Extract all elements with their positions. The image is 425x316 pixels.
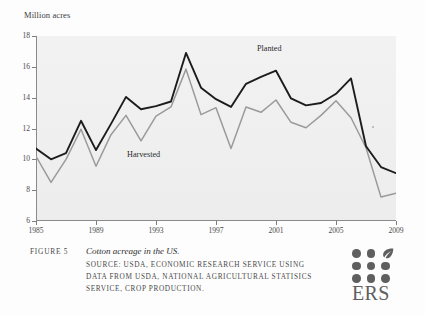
ers-wordmark: ERS [352,282,390,304]
x-tick-mark-1989 [96,221,97,225]
x-axis-tick-1985: 1985 [19,226,53,235]
y-tick-mark-10 [32,159,36,160]
y-axis-tick-8: 8 [8,185,30,194]
logo-dot [367,262,376,271]
y-axis-label: Million acres [24,10,70,20]
x-tick-mark-2001 [276,221,277,225]
figure-number: FIGURE 5 [30,247,86,256]
source-line-2: DATA FROM USDA, NATIONAL AGRICULTURAL ST… [86,271,350,283]
planted-line [36,53,396,173]
chart-plot [36,36,396,221]
source-note: SOURCE: USDA, ECONOMIC RESEARCH SERVICE … [86,259,350,296]
y-axis-tick-14: 14 [8,93,30,102]
y-tick-mark-16 [32,67,36,68]
x-axis-tick-2005: 2005 [319,226,353,235]
x-tick-mark-2005 [336,221,337,225]
y-tick-mark-12 [32,129,36,130]
figure-caption: FIGURE 5 Cotton acreage in the US. SOURC… [30,246,350,296]
x-axis-tick-2001: 2001 [259,226,293,235]
y-axis-tick-12: 12 [8,124,30,133]
source-line-1: SOURCE: USDA, ECONOMIC RESEARCH SERVICE … [86,259,350,271]
x-tick-mark-1985 [36,221,37,225]
logo-dot [352,249,361,258]
y-axis-tick-18: 18 [8,31,30,40]
figure-title: Cotton acreage in the US. [86,246,179,256]
logo-dot [352,262,361,271]
y-axis-tick-10: 10 [8,154,30,163]
y-tick-mark-18 [32,36,36,37]
x-tick-mark-2009 [396,221,397,225]
x-axis-tick-1989: 1989 [79,226,113,235]
x-axis-tick-1993: 1993 [139,226,173,235]
x-axis-tick-1997: 1997 [199,226,233,235]
x-tick-mark-1997 [216,221,217,225]
x-tick-mark-1993 [156,221,157,225]
logo-dot [381,262,390,271]
leaf-icon [381,248,394,260]
y-axis-tick-6: 6 [8,216,30,225]
scan-speck [372,126,374,128]
logo-dot [367,249,376,258]
y-tick-mark-14 [32,98,36,99]
y-axis-tick-16: 16 [8,62,30,71]
ers-logo: ERS [352,249,406,307]
x-axis-tick-2009: 2009 [379,226,413,235]
source-line-3: SERVICE, CROP PRODUCTION. [86,283,350,295]
y-tick-mark-8 [32,190,36,191]
figure-page: Million acres 18161412108619851989199319… [0,0,425,316]
series-label-planted: Planted [257,44,282,53]
series-label-harvested: Harvested [127,150,160,159]
